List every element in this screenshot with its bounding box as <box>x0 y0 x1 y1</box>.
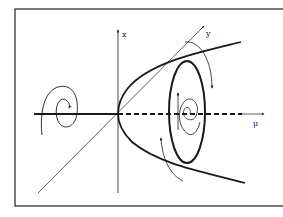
x-axis-label: x <box>122 30 127 39</box>
mu-axis-label: μ <box>253 119 258 128</box>
attracting-arrow-top <box>185 42 212 88</box>
y-axis-label: y <box>205 29 211 38</box>
limit-cycle-orbit <box>169 61 205 163</box>
stable-spiral <box>41 86 77 135</box>
figure-frame <box>15 9 283 206</box>
y-axis <box>38 26 204 193</box>
unstable-spiral <box>179 99 200 135</box>
hopf-bifurcation-figure: x y μ <box>0 0 283 217</box>
